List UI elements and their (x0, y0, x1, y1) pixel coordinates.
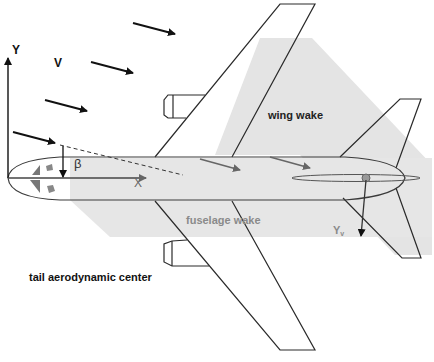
velocity-arrows (13, 23, 175, 143)
fuselage-wake-label: fuselage wake (186, 214, 261, 226)
tail-aerodynamic-center-label: tail aerodynamic center (29, 271, 153, 283)
y-axis-label: Y (12, 43, 20, 57)
upper-engine (164, 95, 205, 118)
wing-wake-label: wing wake (267, 109, 323, 121)
sideslip-diagram: Y V X β wing wake fuselage wake Yv tail … (0, 0, 434, 362)
lower-engine (164, 240, 209, 266)
x-axis-label: X (134, 176, 142, 190)
beta-label: β (74, 156, 81, 171)
velocity-label: V (54, 56, 62, 70)
